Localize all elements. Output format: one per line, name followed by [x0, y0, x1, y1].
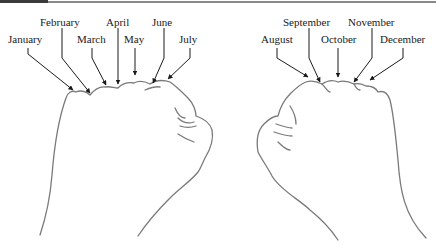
arrow-december: [370, 48, 403, 80]
arrow-september: [309, 28, 320, 82]
arrow-august: [277, 48, 308, 77]
arrow-february: [62, 28, 90, 93]
arrow-november: [354, 28, 372, 82]
arrow-july: [168, 48, 190, 79]
right-fist-icon: [257, 81, 426, 240]
arrow-june: [153, 28, 164, 83]
arrow-march: [92, 48, 106, 85]
left-arrows: [28, 28, 190, 93]
arrow-january: [28, 48, 73, 90]
left-fist-icon: [40, 81, 213, 236]
right-arrows: [277, 28, 403, 82]
knuckle-diagram: [0, 0, 436, 252]
